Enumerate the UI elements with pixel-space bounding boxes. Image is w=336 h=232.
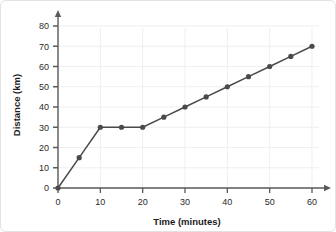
data-point-marker xyxy=(204,94,209,99)
x-axis-title: Time (minutes) xyxy=(153,216,220,227)
gridlines xyxy=(58,26,319,188)
data-point-marker xyxy=(309,44,314,49)
data-point-marker xyxy=(140,125,145,130)
x-tick-label: 40 xyxy=(222,197,232,207)
x-tick-label: 20 xyxy=(138,197,148,207)
x-axis-ticks: 0102030405060 xyxy=(55,188,317,207)
y-axis-ticks: 01020304050607080 xyxy=(39,21,58,193)
data-point-marker xyxy=(55,185,60,190)
distance-time-line-chart: 0102030405060 01020304050607080 Time (mi… xyxy=(1,1,336,232)
x-tick-label: 50 xyxy=(265,197,275,207)
data-point-marker xyxy=(182,104,187,109)
data-point-marker xyxy=(288,54,293,59)
data-point-marker xyxy=(225,84,230,89)
y-tick-label: 0 xyxy=(44,183,49,193)
x-tick-label: 60 xyxy=(307,197,317,207)
y-tick-label: 60 xyxy=(39,62,49,72)
chart-figure: 0102030405060 01020304050607080 Time (mi… xyxy=(0,0,336,232)
y-tick-label: 10 xyxy=(39,163,49,173)
y-tick-label: 70 xyxy=(39,42,49,52)
y-tick-label: 40 xyxy=(39,102,49,112)
data-point-marker xyxy=(267,64,272,69)
data-point-marker xyxy=(161,115,166,120)
data-point-marker xyxy=(77,155,82,160)
y-tick-label: 20 xyxy=(39,143,49,153)
y-axis-title: Distance (km) xyxy=(11,74,22,136)
x-tick-label: 0 xyxy=(55,197,60,207)
y-tick-label: 30 xyxy=(39,123,49,133)
data-point-marker xyxy=(246,74,251,79)
y-tick-label: 80 xyxy=(39,21,49,31)
data-point-marker xyxy=(98,125,103,130)
y-tick-label: 50 xyxy=(39,82,49,92)
axes xyxy=(55,10,331,191)
x-tick-label: 10 xyxy=(95,197,105,207)
data-point-marker xyxy=(119,125,124,130)
x-tick-label: 30 xyxy=(180,197,190,207)
